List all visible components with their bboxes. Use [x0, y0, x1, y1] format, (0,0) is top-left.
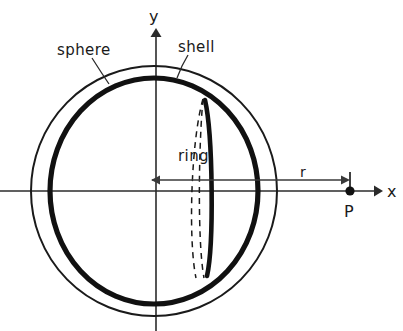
y-axis-label: y	[149, 7, 158, 26]
ring-dashed-outline	[192, 99, 204, 278]
shell-leader-line	[177, 55, 188, 78]
x-axis-arrowhead	[374, 186, 383, 197]
sphere-leader-line	[92, 58, 109, 84]
ring-dashed-right	[199, 99, 204, 278]
diagram-canvas: sphere shell ring r P x y	[0, 0, 403, 331]
x-axis-label: x	[387, 182, 396, 201]
sphere-label: sphere	[57, 41, 111, 59]
y-axis-arrowhead	[151, 28, 162, 37]
point-p-label: P	[344, 202, 354, 221]
radius-label: r	[300, 164, 306, 180]
ring-chord-arc	[205, 100, 212, 276]
ring-label: ring	[178, 147, 209, 165]
radius-arrowhead-right	[341, 176, 350, 185]
physics-diagram-figure: sphere shell ring r P x y	[0, 0, 403, 331]
shell-label: shell	[178, 38, 215, 56]
radius-dimension	[151, 172, 350, 188]
point-p-dot	[345, 186, 354, 195]
